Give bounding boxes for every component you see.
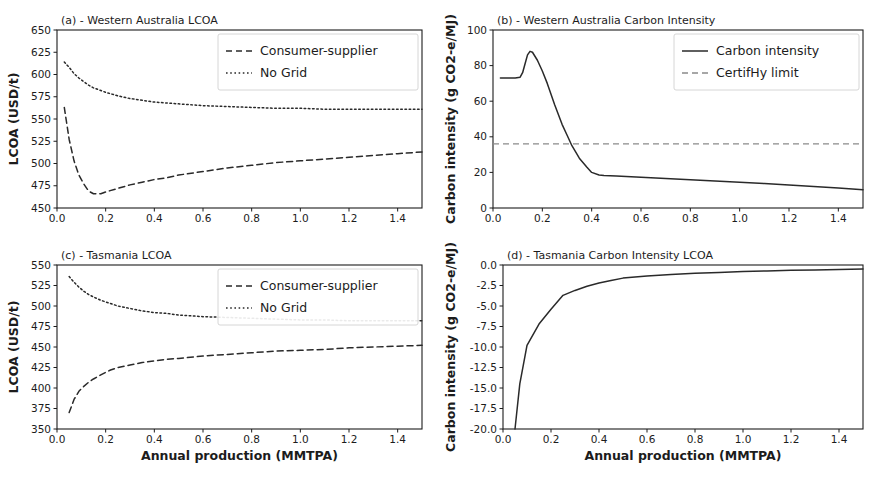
x-tick-label-b-6: 1.2 [781, 212, 798, 224]
chart-b: (b) - Western Australia Carbon Intensity… [441, 0, 881, 238]
y-tick-label-c-5: 475 [31, 320, 51, 332]
y-tick-label-d-1: -17.5 [470, 402, 497, 414]
y-tick-label-b-2: 40 [474, 130, 487, 142]
y-tick-label-a-4: 550 [31, 113, 51, 125]
y-tick-label-b-4: 80 [474, 59, 487, 71]
y-tick-label-c-3: 425 [31, 361, 51, 373]
y-axis-title-a: LCOA (USD/t) [6, 73, 21, 166]
x-axis-title-d: Annual production (MMTPA) [584, 448, 781, 463]
y-tick-label-d-0: -20.0 [470, 423, 497, 435]
y-axis-title-b: Carbon intensity (g CO2-e/MJ) [443, 14, 458, 224]
legend-box-a [218, 34, 418, 90]
legend-box-c [218, 269, 418, 325]
subplot-a: (a) - Western Australia LCOA0.00.20.40.6… [0, 0, 440, 238]
x-tick-label-c-1: 0.2 [97, 433, 114, 445]
x-tick-label-c-5: 1.0 [292, 433, 309, 445]
x-tick-label-b-2: 0.4 [583, 212, 600, 224]
y-tick-label-a-7: 625 [31, 46, 51, 58]
x-tick-label-a-6: 1.2 [341, 212, 358, 224]
x-tick-label-b-4: 0.8 [682, 212, 699, 224]
series-line-c-consumer-supplier [69, 345, 422, 412]
y-tick-label-a-2: 500 [31, 157, 51, 169]
chart-c: (c) - Tasmania LCOA0.00.20.40.60.81.01.2… [0, 238, 440, 477]
y-tick-label-a-1: 475 [31, 179, 51, 191]
x-tick-label-c-4: 0.8 [243, 433, 260, 445]
y-tick-label-b-0: 0 [480, 202, 487, 214]
panel-title-c: (c) - Tasmania LCOA [61, 249, 172, 262]
subplot-b: (b) - Western Australia Carbon Intensity… [441, 0, 881, 238]
y-tick-label-d-5: -7.5 [477, 320, 498, 332]
x-tick-label-a-0: 0.0 [49, 212, 66, 224]
legend-label-no-grid: No Grid [260, 65, 307, 80]
chart-d: (d) - Tasmania Carbon Intensity LCOA0.00… [441, 238, 881, 477]
x-tick-label-a-4: 0.8 [243, 212, 260, 224]
y-axis-title-c: LCOA (USD/t) [6, 301, 21, 394]
x-tick-label-d-7: 1.4 [831, 433, 848, 445]
x-tick-label-c-2: 0.4 [146, 433, 163, 445]
legend-label-consumer-supplier: Consumer-supplier [260, 43, 378, 58]
y-tick-label-a-8: 650 [31, 24, 51, 36]
legend-box-b [674, 34, 859, 90]
x-tick-label-a-3: 0.6 [195, 212, 212, 224]
x-tick-label-d-5: 1.0 [735, 433, 752, 445]
x-tick-label-d-0: 0.0 [495, 433, 512, 445]
x-tick-label-a-5: 1.0 [292, 212, 309, 224]
x-tick-label-d-6: 1.2 [783, 433, 800, 445]
x-tick-label-c-6: 1.2 [341, 433, 358, 445]
y-axis-title-d: Carbon intensity (g CO2-e/MJ) [443, 242, 458, 452]
x-tick-label-d-1: 0.2 [543, 433, 560, 445]
x-tick-label-a-2: 0.4 [146, 212, 163, 224]
x-tick-label-d-4: 0.8 [687, 433, 704, 445]
plot-frame-d [503, 265, 863, 429]
legend-label-consumer-supplier: Consumer-supplier [260, 278, 378, 293]
x-tick-label-b-7: 1.4 [830, 212, 847, 224]
x-tick-label-b-0: 0.0 [485, 212, 502, 224]
x-axis-title-c: Annual production (MMTPA) [141, 448, 338, 463]
x-tick-label-d-3: 0.6 [639, 433, 656, 445]
y-tick-label-d-7: -2.5 [477, 279, 498, 291]
x-tick-label-c-0: 0.0 [49, 433, 66, 445]
subplot-c: (c) - Tasmania LCOA0.00.20.40.60.81.01.2… [0, 238, 440, 477]
legend-label-no-grid: No Grid [260, 300, 307, 315]
y-tick-label-c-7: 525 [31, 279, 51, 291]
y-tick-label-b-5: 100 [467, 24, 487, 36]
y-tick-label-d-6: -5.0 [477, 300, 498, 312]
y-tick-label-a-5: 575 [31, 90, 51, 102]
figure-canvas: (a) - Western Australia LCOA0.00.20.40.6… [0, 0, 881, 477]
x-tick-label-c-3: 0.6 [195, 433, 212, 445]
subplot-d: (d) - Tasmania Carbon Intensity LCOA0.00… [441, 238, 881, 477]
x-tick-label-c-7: 1.4 [389, 433, 406, 445]
y-tick-label-b-1: 20 [474, 166, 487, 178]
y-tick-label-c-1: 375 [31, 402, 51, 414]
y-tick-label-b-3: 60 [474, 95, 487, 107]
y-tick-label-d-3: -12.5 [470, 361, 497, 373]
legend-label-certifhy-limit: CertifHy limit [716, 65, 799, 80]
y-tick-label-c-6: 500 [31, 300, 51, 312]
y-tick-label-a-6: 600 [31, 68, 51, 80]
y-tick-label-c-2: 400 [31, 382, 51, 394]
panel-title-d: (d) - Tasmania Carbon Intensity LCOA [507, 249, 713, 262]
y-tick-label-d-8: 0.0 [480, 259, 497, 271]
x-tick-label-b-3: 0.6 [633, 212, 650, 224]
x-tick-label-d-2: 0.4 [591, 433, 608, 445]
y-tick-label-d-4: -10.0 [470, 341, 497, 353]
chart-a: (a) - Western Australia LCOA0.00.20.40.6… [0, 0, 440, 238]
x-tick-label-a-7: 1.4 [389, 212, 406, 224]
x-tick-label-b-1: 0.2 [534, 212, 551, 224]
panel-title-b: (b) - Western Australia Carbon Intensity [497, 14, 716, 27]
y-tick-label-d-2: -15.0 [470, 382, 497, 394]
legend-label-carbon-intensity: Carbon intensity [716, 43, 820, 58]
x-tick-label-a-1: 0.2 [97, 212, 114, 224]
y-tick-label-c-8: 550 [31, 259, 51, 271]
series-line-a-consumer-supplier [64, 107, 422, 193]
y-tick-label-a-3: 525 [31, 135, 51, 147]
y-tick-label-c-0: 350 [31, 423, 51, 435]
y-tick-label-a-0: 450 [31, 202, 51, 214]
x-tick-label-b-5: 1.0 [731, 212, 748, 224]
panel-title-a: (a) - Western Australia LCOA [61, 14, 218, 27]
y-tick-label-c-4: 450 [31, 341, 51, 353]
series-line-d-carbon-intensity [515, 269, 863, 429]
